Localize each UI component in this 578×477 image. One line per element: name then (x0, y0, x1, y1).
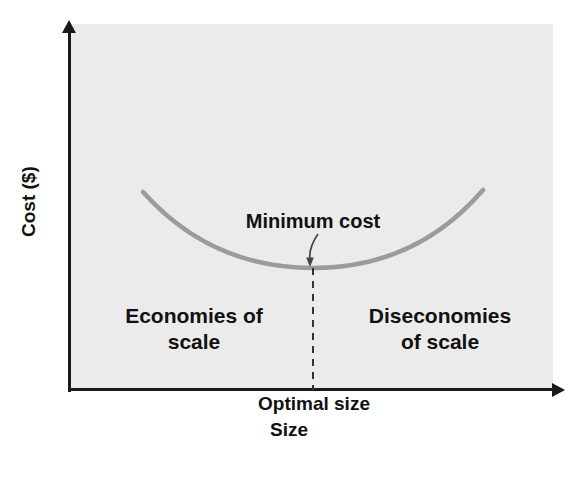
economies-of-scale-label: Economies of scale (106, 303, 282, 354)
x-axis-line (68, 388, 556, 391)
optimal-size-label: Optimal size (229, 392, 399, 415)
y-axis-arrow-icon (62, 20, 76, 33)
minimum-cost-annotation-label: Minimum cost (237, 209, 389, 233)
y-axis-title: Cost ($) (17, 137, 40, 267)
diseconomies-of-scale-label: Diseconomies of scale (345, 303, 535, 354)
economies-of-scale-chart: Cost ($) Minimum cost Economies of scale… (0, 0, 578, 477)
x-axis-arrow-icon (552, 383, 565, 397)
y-axis-line (68, 28, 71, 392)
x-axis-title: Size (219, 418, 359, 441)
